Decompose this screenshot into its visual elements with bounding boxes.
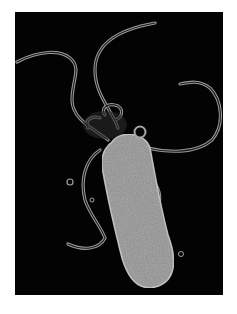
bacterium-illustration bbox=[15, 12, 223, 295]
image-frame bbox=[0, 0, 237, 314]
pole-haze bbox=[83, 111, 127, 139]
bacterium-body bbox=[102, 134, 174, 287]
micrograph bbox=[15, 12, 223, 295]
vesicle-ring bbox=[135, 127, 146, 138]
small-ring bbox=[67, 179, 73, 185]
small-ring bbox=[90, 198, 94, 202]
small-ring bbox=[179, 252, 184, 257]
